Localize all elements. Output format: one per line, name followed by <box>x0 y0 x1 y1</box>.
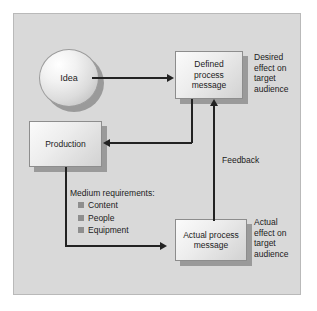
diagram-panel: Idea Defined process message Production … <box>13 13 301 295</box>
arrow-production-to-actual <box>160 242 167 250</box>
list-item-label: People <box>88 213 114 223</box>
arrow-idea-to-defined <box>167 74 174 82</box>
arrow-feedback-to-defined <box>210 99 218 106</box>
medium-requirements-items: Content People Equipment <box>70 200 155 235</box>
defined-process-message-node[interactable]: Defined process message <box>175 51 243 99</box>
actual-effect-annotation: Actual effect on target audience <box>254 217 310 259</box>
medium-requirements-list: Medium requirements: Content People Equi… <box>70 188 155 238</box>
idea-node[interactable]: Idea <box>39 49 99 107</box>
list-item-label: Equipment <box>88 225 129 235</box>
list-item: People <box>78 213 155 223</box>
feedback-label: Feedback <box>222 155 259 165</box>
connector-defined-to-production-vertical <box>191 99 193 143</box>
bullet-square-icon <box>78 227 84 233</box>
production-node[interactable]: Production <box>29 121 102 167</box>
list-item-label: Content <box>88 200 118 210</box>
arrow-defined-to-production <box>103 139 110 147</box>
connector-idea-to-defined <box>92 77 167 79</box>
list-item: Equipment <box>78 225 155 235</box>
bullet-square-icon <box>78 202 84 208</box>
desired-effect-annotation: Desired effect on target audience <box>254 52 310 94</box>
diagram-canvas: Idea Defined process message Production … <box>0 0 317 311</box>
connector-production-to-actual-vertical <box>65 167 67 246</box>
connector-feedback-vertical <box>213 106 215 221</box>
connector-production-to-actual-horizontal <box>65 245 160 247</box>
medium-requirements-title: Medium requirements: <box>70 188 155 198</box>
actual-process-message-node[interactable]: Actual process message <box>175 219 247 261</box>
bullet-square-icon <box>78 215 84 221</box>
list-item: Content <box>78 200 155 210</box>
idea-label: Idea <box>60 73 78 83</box>
connector-defined-to-production-horizontal <box>110 142 192 144</box>
